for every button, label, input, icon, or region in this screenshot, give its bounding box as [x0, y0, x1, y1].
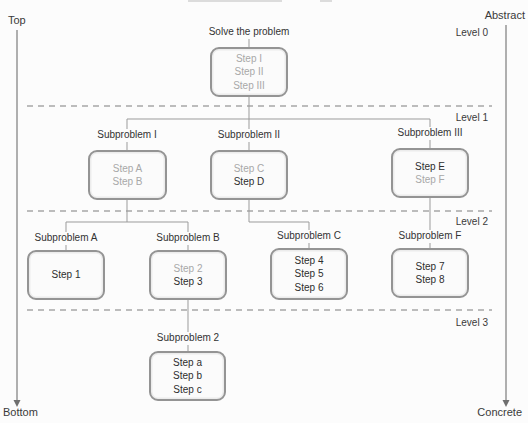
node-title: Solve the problem	[189, 26, 309, 37]
node-box: Step CStep D	[210, 150, 288, 200]
node-box: Step IStep IIStep III	[210, 47, 288, 97]
step-line: Step c	[173, 383, 201, 397]
step-line: Step 2	[174, 262, 203, 276]
diagram-stage: Top Bottom Abstract Concrete Solve the p…	[0, 0, 528, 423]
connector-line	[249, 200, 309, 230]
step-line: Step B	[112, 175, 142, 189]
node-title: Subproblem I	[67, 129, 187, 140]
node-title: Subproblem III	[370, 127, 490, 138]
step-line: Step 1	[52, 268, 81, 282]
node-box: Step 2Step 3	[149, 250, 227, 300]
node-title: Subproblem F	[370, 230, 490, 241]
cropped-top-bar-artifact	[320, 0, 332, 2]
step-line: Step III	[233, 79, 265, 93]
step-line: Step 8	[416, 273, 445, 287]
step-line: Step 6	[295, 281, 324, 295]
axis-label-concrete: Concrete	[477, 406, 522, 418]
node-title: Subproblem C	[249, 230, 369, 241]
node-box: Step aStep bStep c	[149, 351, 226, 401]
step-line: Step b	[173, 369, 202, 383]
axis-label-top: Top	[8, 14, 26, 26]
step-line: Step E	[415, 160, 445, 174]
level-label: Level 1	[456, 112, 488, 123]
axis-label-bottom: Bottom	[3, 406, 38, 418]
step-line: Step II	[235, 65, 264, 79]
level-label: Level 0	[456, 27, 488, 38]
node-box: Step 1	[27, 250, 105, 300]
step-line: Step A	[113, 162, 142, 176]
node-box: Step EStep F	[391, 148, 469, 198]
node-title: Subproblem 2	[128, 332, 248, 343]
step-line: Step 7	[416, 260, 445, 274]
node-title: Subproblem A	[6, 232, 126, 243]
node-box: Step 7Step 8	[391, 248, 469, 298]
axis-label-abstract: Abstract	[485, 9, 525, 21]
step-line: Step D	[234, 175, 265, 189]
node-title: Subproblem II	[189, 129, 309, 140]
node-box: Step AStep B	[88, 150, 167, 200]
step-line: Step 4	[295, 254, 324, 268]
level-label: Level 2	[456, 216, 488, 227]
level-label: Level 3	[456, 317, 488, 328]
cropped-top-bar-artifact	[188, 0, 282, 2]
step-line: Step I	[236, 52, 262, 66]
step-line: Step F	[415, 173, 444, 187]
step-line: Step 5	[295, 267, 324, 281]
node-title: Subproblem B	[128, 232, 248, 243]
step-line: Step a	[173, 356, 202, 370]
node-box: Step 4Step 5Step 6	[270, 248, 348, 300]
step-line: Step C	[234, 162, 265, 176]
step-line: Step 3	[174, 275, 203, 289]
